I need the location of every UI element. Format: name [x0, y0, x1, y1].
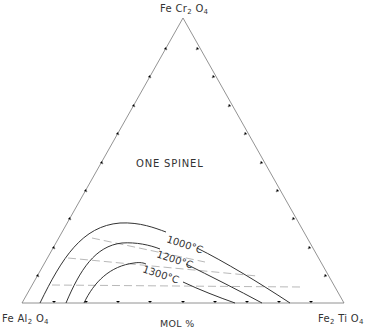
vertex-label-top: Fe Cr2 O4: [160, 3, 208, 16]
isotherm-label-1200: 1200°C: [155, 248, 194, 270]
phase-field-label: ONE SPINEL: [136, 158, 204, 169]
isotherm-1300-curve: [84, 263, 146, 303]
isotherm-1200-curve-tail: [186, 264, 262, 303]
vertex-label-bottom-right: Fe2 Ti O4: [318, 313, 364, 326]
vertex-label-bottom-left: Fe Al2 O4: [2, 313, 49, 326]
isotherm-1000-curve-tail: [197, 248, 290, 303]
isotherm-1000-curve: [40, 223, 166, 303]
axis-unit-label: MOL %: [160, 318, 195, 329]
right-edge-ticks: [196, 47, 327, 277]
isotherm-label-1300: 1300°C: [141, 263, 180, 285]
